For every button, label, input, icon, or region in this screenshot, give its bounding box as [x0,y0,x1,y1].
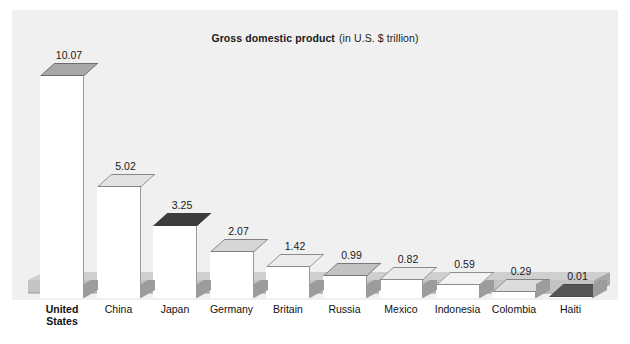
bar-top-face [210,239,268,252]
bar-base-shadow [97,280,155,298]
bar-base-shadow [40,280,98,298]
bar-front-face [40,76,84,298]
bars-container: 10.075.023.252.071.420.990.820.590.290.0… [0,0,630,344]
chart-title: Gross domestic product(in U.S. $ trillio… [0,32,630,44]
bar-top-face [379,267,437,280]
gdp-bar-chart: Gross domestic product(in U.S. $ trillio… [0,0,630,344]
bar-base-shadow [323,280,381,298]
bar-base-shadow [266,280,324,298]
bar-top-face [266,254,324,267]
bar-base-shadow [549,280,607,298]
bar-base-shadow [492,280,550,298]
category-label-haiti: Haiti [535,303,607,315]
bar-top-face [153,213,211,226]
bar-top-face [40,63,98,76]
chart-title-main: Gross domestic product [211,32,335,44]
bar-value-label: 10.07 [56,49,82,61]
bar-value-label: 5.02 [115,160,135,172]
category-labels: United StatesChinaJapanGermanyBritainRus… [0,303,630,341]
bar-value-label: 3.25 [172,199,192,211]
bar-base-shadow [153,280,211,298]
chart-title-units: (in U.S. $ trillion) [339,32,419,44]
bar-value-label: 0.59 [454,258,474,270]
bar-value-label: 2.07 [228,225,248,237]
bar-base-shadow [436,280,494,298]
bar-value-label: 1.42 [285,240,305,252]
bar-top-face [323,263,381,276]
bar-base-shadow [210,280,268,298]
bar-value-label: 0.82 [398,253,418,265]
bar-base-shadow [379,280,437,298]
bar-united-states[interactable]: 10.07 [40,62,84,298]
bar-value-label: 0.99 [341,249,361,261]
bar-top-face [97,174,155,187]
bar-value-label: 0.29 [511,265,531,277]
